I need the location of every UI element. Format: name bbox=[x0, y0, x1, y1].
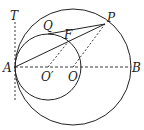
label-T: T bbox=[10, 9, 19, 23]
segment-OP bbox=[73, 24, 105, 67]
label-O: O bbox=[68, 70, 78, 84]
label-P: P bbox=[106, 11, 116, 25]
geometry-diagram: T Q P F A O′ O B bbox=[0, 0, 144, 130]
label-O-prime: O′ bbox=[41, 70, 54, 84]
segment-O-prime-F bbox=[48, 42, 68, 67]
label-F: F bbox=[63, 28, 73, 42]
diagram-canvas: T Q P F A O′ O B bbox=[0, 0, 144, 130]
label-A: A bbox=[2, 61, 12, 75]
label-B: B bbox=[131, 61, 141, 75]
segment-QP bbox=[48, 24, 105, 34]
label-Q: Q bbox=[43, 19, 53, 33]
